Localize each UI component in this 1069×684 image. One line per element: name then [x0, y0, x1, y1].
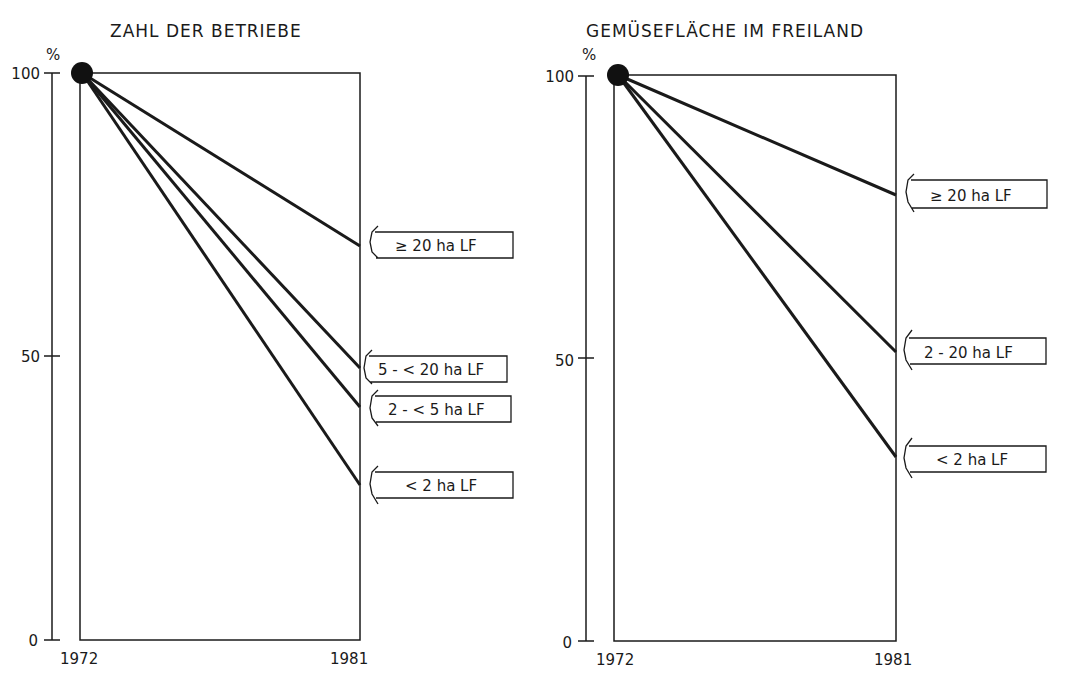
y-tick-label-0: 0: [28, 632, 38, 650]
x-tick-label-1981: 1981: [874, 651, 912, 669]
arrow-label-5-20: 5 - < 20 ha LF: [364, 350, 507, 384]
arrow-label-lt2: < 2 ha LF: [904, 438, 1046, 478]
y-tick-label-50: 50: [21, 348, 40, 366]
y-unit-label: %: [46, 46, 60, 64]
svg-text:5 - < 20 ha LF: 5 - < 20 ha LF: [378, 361, 484, 379]
x-tick-label-1972: 1972: [60, 650, 98, 668]
series-line-2-20: [618, 75, 896, 352]
y-tick-label-100: 100: [11, 65, 40, 83]
series-line-lt2: [82, 73, 360, 485]
arrow-label-lt2: < 2 ha LF: [370, 466, 513, 504]
arrow-label-ge20: ≥ 20 ha LF: [370, 226, 513, 258]
y-unit-label: %: [582, 46, 596, 64]
svg-text:2 - < 5 ha LF: 2 - < 5 ha LF: [388, 401, 485, 419]
x-tick-label-1981: 1981: [330, 650, 368, 668]
arrow-label-ge20: ≥ 20 ha LF: [906, 174, 1047, 212]
y-tick-label-0: 0: [562, 634, 572, 652]
svg-text:≥ 20 ha LF: ≥ 20 ha LF: [395, 237, 477, 255]
origin-dot: [607, 64, 629, 86]
svg-text:≥ 20 ha LF: ≥ 20 ha LF: [930, 187, 1012, 205]
svg-text:2 - 20 ha LF: 2 - 20 ha LF: [924, 344, 1013, 362]
series-line-ge20: [618, 75, 896, 195]
figure: ZAHL DER BETRIEBE % 100 50 0 1972 1981 ≥…: [0, 0, 1069, 684]
x-tick-label-1972: 1972: [596, 651, 634, 669]
chart-zahl-der-betriebe: ZAHL DER BETRIEBE % 100 50 0 1972 1981 ≥…: [11, 21, 513, 668]
y-tick-label-100: 100: [545, 68, 574, 86]
plot-frame: [614, 75, 896, 641]
chart-title: ZAHL DER BETRIEBE: [110, 21, 302, 41]
series-line-2-5: [82, 73, 360, 407]
chart-gemuseflache-im-freiland: GEMÜSEFLÄCHE IM FREILAND % 100 50 0 1972…: [545, 20, 1047, 669]
svg-text:< 2 ha LF: < 2 ha LF: [936, 451, 1008, 469]
arrow-label-2-20: 2 - 20 ha LF: [904, 330, 1046, 370]
origin-dot: [71, 62, 93, 84]
arrow-label-2-5: 2 - < 5 ha LF: [370, 390, 511, 426]
series-line-lt2: [618, 75, 896, 457]
y-tick-label-50: 50: [555, 352, 574, 370]
chart-title: GEMÜSEFLÄCHE IM FREILAND: [586, 20, 864, 41]
svg-text:< 2 ha LF: < 2 ha LF: [405, 477, 477, 495]
